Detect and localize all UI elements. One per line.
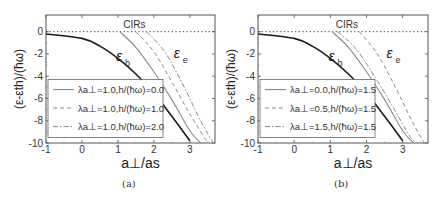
y-tick-label: -10 [29,138,44,149]
x-tick-label: 0 [291,144,297,155]
y-tick-label: -10 [241,138,256,149]
chart-b-canvas: -101230-2-4-6-8-10CIRsεbεeλa⊥=0.0,h/(ħω)… [212,0,443,197]
svg-text:b: b [125,58,130,68]
legend-entry: λa⊥=1.0,h/(ħω)=2.0 [78,121,164,132]
caption-b: (b) [334,178,348,189]
x-axis-label: a⊥/as [334,155,372,171]
legend-entry: λa⊥=0.0,h/(ħω)=1.5 [290,84,376,95]
chart-panel-a: -101230-2-4-6-8-10CIRsεbεeλa⊥=1.0,h/(ħω)… [0,0,220,197]
legend-entry: λa⊥=1.0,h/(ħω)=0.0 [78,84,164,95]
y-tick-label: 0 [249,26,255,37]
cirs-annotation: CIRs [123,19,145,30]
epsilon-b-label: ε [329,48,336,64]
cirs-annotation: CIRs [336,19,358,30]
svg-text:b: b [338,58,343,68]
legend-entry: λa⊥=0.5,h/(ħω)=1.5 [290,103,376,114]
epsilon-e-label: ε [174,45,181,61]
y-tick-label: 0 [37,26,43,37]
epsilon-b-label: ε [116,48,123,64]
x-tick-label: 1 [115,144,121,155]
legend: λa⊥=1.0,h/(ħω)=0.0λa⊥=1.0,h/(ħω)=1.0λa⊥=… [48,80,164,138]
chart-panel-b: -101230-2-4-6-8-10CIRsεbεeλa⊥=0.0,h/(ħω)… [212,0,443,197]
epsilon-e-label: ε [386,45,393,61]
y-tick-label: -6 [34,93,43,104]
x-tick-label: 1 [328,144,334,155]
legend-entry: λa⊥=1.5,h/(ħω)=1.5 [290,121,376,132]
y-axis-label: (ε-εth)/(ħω) [12,49,26,109]
svg-text:e: e [395,55,400,65]
chart-a-canvas: -101230-2-4-6-8-10CIRsεbεeλa⊥=1.0,h/(ħω)… [0,0,220,197]
y-tick-label: -2 [246,48,255,59]
x-axis-label: a⊥/as [121,155,159,171]
x-tick-label: 3 [400,144,406,155]
legend-entry: λa⊥=1.0,h/(ħω)=1.0 [78,103,164,114]
x-tick-label: 0 [79,144,85,155]
svg-text:e: e [183,55,188,65]
legend: λa⊥=0.0,h/(ħω)=1.5λa⊥=0.5,h/(ħω)=1.5λa⊥=… [260,80,376,138]
x-tick-label: 3 [187,144,193,155]
y-tick-label: -4 [246,71,255,82]
x-tick-label: 2 [364,144,370,155]
caption-a: (a) [122,178,136,189]
y-tick-label: -8 [34,115,43,126]
y-tick-label: -8 [246,115,255,126]
y-axis-label: (ε-εth)/(ħω) [224,49,238,109]
y-tick-label: -4 [34,71,43,82]
x-tick-label: 2 [151,144,157,155]
y-tick-label: -6 [246,93,255,104]
y-tick-label: -2 [34,48,43,59]
